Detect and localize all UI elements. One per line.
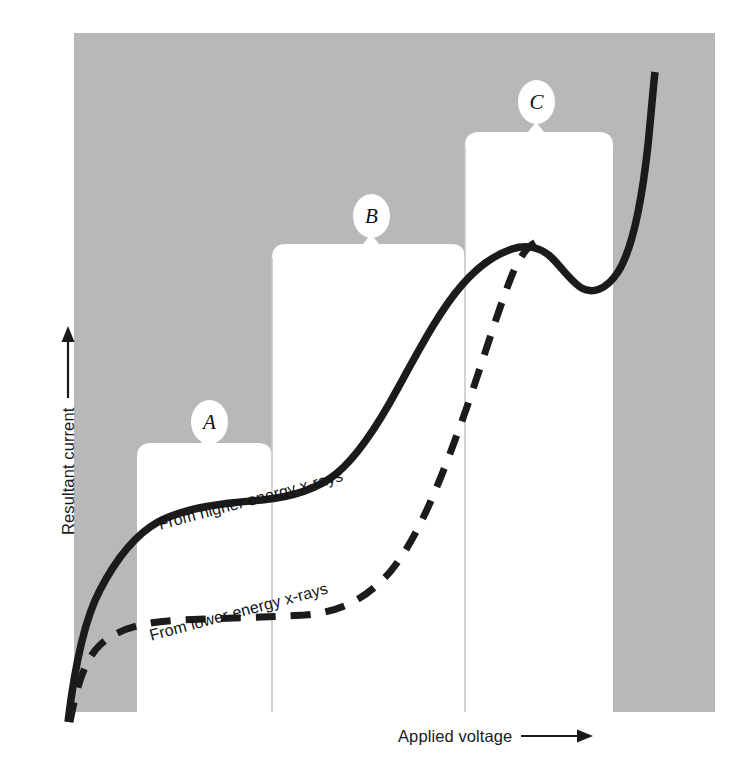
plot-canvas: [0, 0, 746, 775]
bar-label-a: A: [191, 400, 228, 444]
bar-label-c: C: [518, 80, 555, 124]
figure-container: A B C From higher energy x-rays From low…: [0, 0, 746, 775]
bar-label-b: B: [353, 194, 390, 238]
bar-b: [272, 234, 465, 712]
x-axis-label-text: Applied voltage: [398, 727, 512, 746]
bar-a: [137, 434, 272, 712]
right-arrow-icon: [521, 727, 595, 745]
bar-c: [465, 122, 613, 712]
x-axis-label: Applied voltage: [398, 723, 595, 749]
